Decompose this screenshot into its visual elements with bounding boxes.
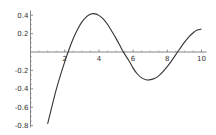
line-chart: 2468100.40.2-0.2-0.4-0.6-0.8 bbox=[0, 0, 216, 135]
y-tick-label: -0.8 bbox=[15, 122, 29, 130]
y-tick-label: -0.4 bbox=[15, 85, 29, 93]
data-line bbox=[48, 14, 202, 124]
y-tick-label: -0.2 bbox=[15, 67, 29, 75]
tick-marks bbox=[31, 15, 202, 125]
y-tick-label: 0.4 bbox=[17, 12, 29, 20]
y-tick-label: 0.2 bbox=[17, 30, 28, 38]
x-tick-label: 4 bbox=[97, 55, 102, 63]
x-tick-label: 8 bbox=[165, 55, 169, 63]
y-tick-label: -0.6 bbox=[15, 104, 29, 112]
x-tick-label: 10 bbox=[197, 55, 206, 63]
plot-area: 2468100.40.2-0.2-0.4-0.6-0.8 bbox=[0, 0, 216, 135]
x-tick-label: 6 bbox=[131, 55, 136, 63]
axes bbox=[31, 11, 207, 128]
